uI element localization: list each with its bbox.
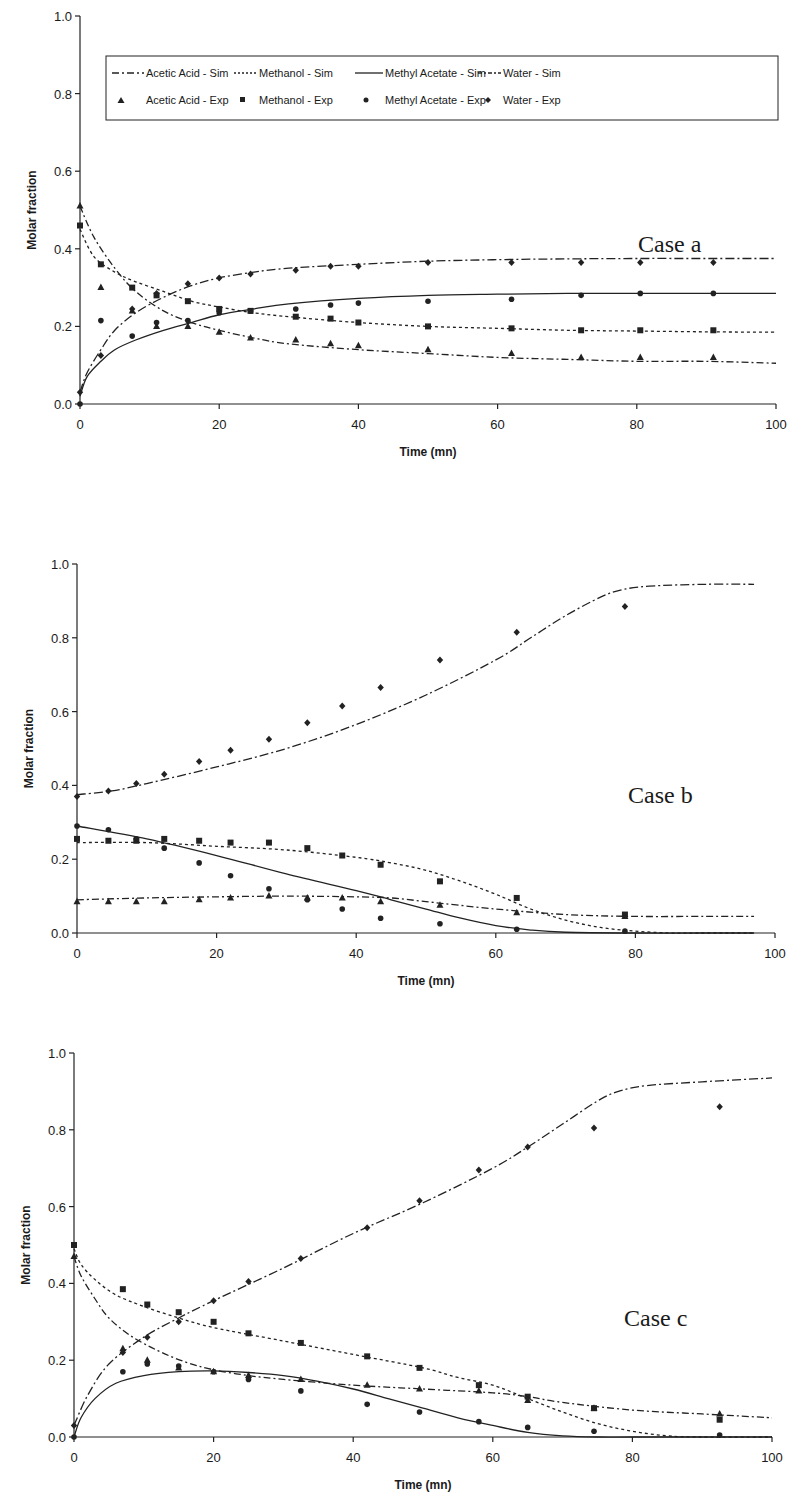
square-marker <box>514 895 520 901</box>
triangle-marker <box>339 894 346 901</box>
x-tick-label: 0 <box>70 1450 77 1465</box>
triangle-marker <box>364 1381 371 1388</box>
triangle-marker <box>77 202 84 209</box>
square-marker <box>161 836 167 842</box>
x-tick-label: 20 <box>209 946 223 961</box>
triangle-marker <box>637 353 644 360</box>
sim-curve <box>74 1371 772 1437</box>
x-tick-label: 100 <box>765 417 787 432</box>
square-marker <box>298 1340 304 1346</box>
square-marker <box>120 1286 126 1292</box>
case-label: Case a <box>638 231 702 257</box>
triangle-marker <box>161 898 168 905</box>
square-marker <box>176 1309 182 1315</box>
y-tick-label: 0.2 <box>48 1353 66 1368</box>
circle-marker <box>328 302 334 308</box>
diamond-marker <box>622 603 628 610</box>
circle-marker <box>161 845 167 851</box>
square-marker <box>509 325 515 331</box>
circle-marker <box>134 836 140 842</box>
circle-marker <box>98 318 104 324</box>
triangle-marker <box>355 342 362 349</box>
square-marker <box>129 285 135 291</box>
diamond-marker <box>196 758 202 765</box>
y-tick-label: 0.6 <box>48 1200 66 1215</box>
y-axis-title: Molar fraction <box>19 1205 33 1284</box>
diamond-marker <box>591 1124 597 1131</box>
y-axis-title: Molar fraction <box>22 709 36 788</box>
square-marker <box>591 1405 597 1411</box>
circle-marker <box>514 927 520 933</box>
diamond-marker <box>364 1224 370 1231</box>
square-marker <box>105 838 111 844</box>
sim-curve <box>77 842 754 933</box>
circle-marker <box>228 873 234 879</box>
square-marker <box>77 223 83 229</box>
diamond-marker <box>210 1297 216 1304</box>
sim-curve <box>74 1078 772 1426</box>
diamond-marker <box>105 787 111 794</box>
legend-box <box>106 56 778 120</box>
legend-label: Acetic Acid - Sim <box>146 67 229 79</box>
square-marker <box>98 261 104 267</box>
diamond-marker <box>266 736 272 743</box>
diamond-marker <box>716 1103 722 1110</box>
circle-marker <box>417 1409 423 1415</box>
x-tick-label: 100 <box>761 1450 783 1465</box>
y-tick-label: 0.8 <box>51 631 69 646</box>
diamond-marker <box>514 629 520 636</box>
circle-marker <box>154 320 160 326</box>
square-marker <box>710 327 716 333</box>
square-marker <box>425 323 431 329</box>
square-marker <box>637 327 643 333</box>
case-label: Case c <box>624 1305 687 1331</box>
diamond-marker <box>304 719 310 726</box>
circle-marker <box>298 1388 304 1394</box>
diamond-marker <box>476 1167 482 1174</box>
circle-marker <box>74 823 80 829</box>
x-tick-label: 80 <box>630 417 644 432</box>
y-tick-label: 0.6 <box>51 705 69 720</box>
triangle-marker <box>377 898 384 905</box>
case-label: Case b <box>628 782 693 808</box>
y-tick-label: 1.0 <box>51 557 69 572</box>
square-marker-icon <box>240 97 245 102</box>
circle-marker <box>176 1363 182 1369</box>
x-tick-label: 0 <box>73 946 80 961</box>
x-axis-title: Time (mn) <box>399 445 456 459</box>
square-marker <box>211 1319 217 1325</box>
circle-marker <box>437 921 443 927</box>
circle-marker <box>196 860 202 866</box>
circle-marker <box>144 1361 150 1367</box>
y-tick-label: 0.2 <box>51 852 69 867</box>
square-marker <box>364 1353 370 1359</box>
diamond-marker <box>216 274 222 281</box>
circle-marker <box>476 1419 482 1425</box>
legend-label: Methanol - Exp <box>259 94 333 106</box>
legend-label: Water - Sim <box>503 67 561 79</box>
legend-label: Methyl Acetate - Sim <box>385 67 486 79</box>
x-tick-label: 60 <box>490 417 504 432</box>
diamond-marker <box>327 263 333 270</box>
diamond-marker <box>578 259 584 266</box>
diamond-marker <box>161 771 167 778</box>
circle-marker <box>185 318 191 324</box>
circle-marker <box>356 300 362 306</box>
square-marker <box>144 1302 150 1308</box>
triangle-marker <box>327 340 334 347</box>
triangle-marker <box>265 892 272 899</box>
triangle-marker <box>508 350 515 357</box>
triangle-marker <box>74 898 81 905</box>
plot-case-b: 0.00.20.40.60.81.0020406080100Time (mn)M… <box>22 557 786 988</box>
square-marker <box>266 840 272 846</box>
square-marker <box>378 862 384 868</box>
circle-marker <box>129 333 135 339</box>
circle-marker <box>216 310 222 316</box>
x-tick-label: 20 <box>206 1450 220 1465</box>
y-tick-label: 0.8 <box>48 1123 66 1138</box>
y-tick-label: 0.2 <box>54 319 72 334</box>
diamond-marker <box>339 703 345 710</box>
x-tick-label: 60 <box>486 1450 500 1465</box>
x-tick-label: 40 <box>346 1450 360 1465</box>
diamond-marker <box>710 259 716 266</box>
